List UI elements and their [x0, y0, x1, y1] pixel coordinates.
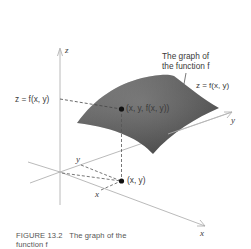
domain-point	[119, 178, 124, 183]
title-pointer	[184, 73, 186, 84]
surface-equation-label: z = f(x, y)	[196, 82, 229, 90]
caption-line-2: function f	[16, 240, 156, 249]
figure-caption: FIGURE 13.2 The graph of the function f	[16, 231, 156, 249]
x-axis-arrow	[197, 220, 205, 226]
x-coordinate-tick-label: x	[95, 190, 99, 199]
graph-title-line2: the function f	[162, 61, 210, 71]
surface-point	[119, 106, 124, 111]
dashed-y-to-point	[81, 165, 121, 181]
caption-line-1: FIGURE 13.2 The graph of the	[16, 231, 156, 240]
graph-title: The graph of the function f	[162, 51, 210, 71]
graph-figure	[0, 0, 251, 249]
graph-title-line1: The graph of	[162, 51, 210, 61]
surface-point-label: (x, y, f(x, y))	[126, 104, 169, 112]
height-label: z = f(x, y)	[15, 95, 49, 103]
dashed-origin-to-point	[62, 173, 121, 181]
z-axis-label: z	[65, 46, 69, 55]
y-axis-label: y	[231, 116, 235, 125]
x-axis-back	[28, 162, 60, 172]
x-axis-label: x	[200, 229, 204, 238]
y-axis-back	[30, 172, 60, 183]
domain-point-label: (x, y)	[127, 176, 145, 184]
y-coordinate-tick-label: y	[76, 155, 80, 164]
